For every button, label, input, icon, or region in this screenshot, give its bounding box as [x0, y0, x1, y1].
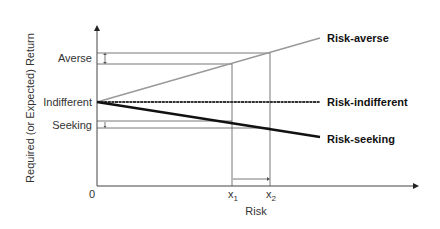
seeking-label: Seeking: [52, 119, 92, 131]
x-axis-arrow-icon: [413, 183, 419, 189]
y-axis-arrow-icon: [94, 25, 100, 31]
origin-label: 0: [89, 188, 95, 200]
x-range-arrow-icon: [267, 177, 270, 181]
risk-seeking-label: Risk-seeking: [327, 133, 395, 145]
risk-averse-line: [97, 38, 320, 102]
x2-label: x2: [266, 188, 277, 203]
risk-indifferent-label: Risk-indifferent: [327, 96, 408, 108]
risk-averse-label: Risk-averse: [327, 32, 389, 44]
risk-seeking-line: [97, 102, 320, 137]
averse-label: Averse: [58, 52, 92, 64]
y-axis-label: Required (or Expected) Return: [24, 33, 36, 183]
indifferent-label: Indifferent: [43, 96, 92, 108]
risk-return-diagram: Averse Indifferent Seeking 0 x1 x2 Risk …: [0, 0, 440, 229]
x1-label: x1: [228, 188, 239, 203]
x-axis-label: Risk: [245, 205, 267, 217]
